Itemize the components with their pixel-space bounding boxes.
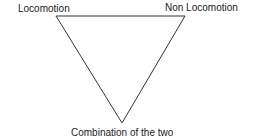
label-locomotion: Locomotion [18,3,70,14]
label-non-locomotion: Non Locomotion [165,2,238,13]
triangle-shape [0,0,265,139]
label-combination: Combination of the two [71,127,173,138]
inverted-triangle [56,16,185,123]
